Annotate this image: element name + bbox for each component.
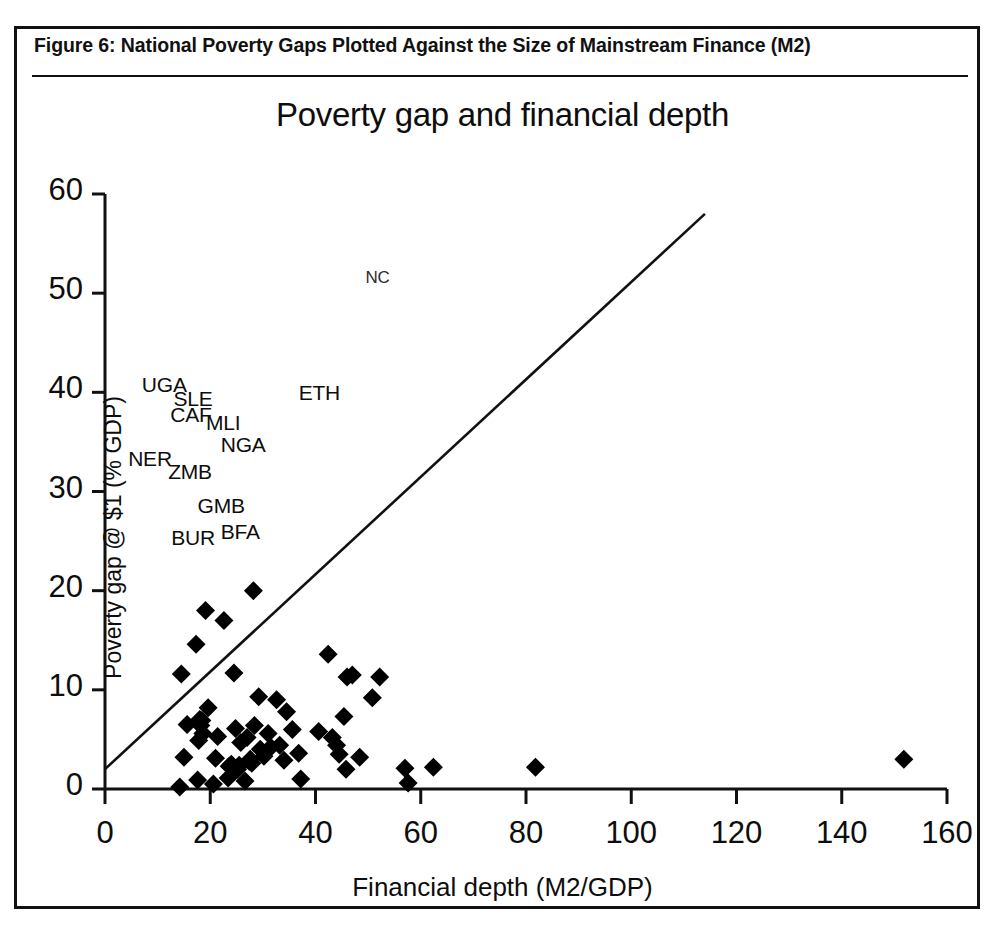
data-point xyxy=(244,581,263,600)
y-tick-label: 40 xyxy=(0,370,83,406)
y-tick-label: 0 xyxy=(0,767,83,803)
data-point xyxy=(370,667,389,686)
y-tick-label: 50 xyxy=(0,271,83,307)
data-point xyxy=(283,720,302,739)
plot-canvas xyxy=(105,194,947,789)
data-point xyxy=(894,750,913,769)
scatter-plot: 0102030405060 020406080100120140160 NCUG… xyxy=(105,194,947,789)
data-points xyxy=(170,581,913,796)
data-point xyxy=(424,758,443,777)
country-label: GMB xyxy=(198,494,245,518)
y-axis-title: Poverty gap @ $1 (% GDP) xyxy=(100,238,127,838)
country-label: NGA xyxy=(221,433,266,457)
y-tick-label: 20 xyxy=(0,569,83,605)
data-point xyxy=(334,707,353,726)
x-tick-label: 140 xyxy=(792,815,892,851)
data-point xyxy=(395,759,414,778)
country-label: ZMB xyxy=(168,460,212,484)
figure-caption: Figure 6: National Poverty Gaps Plotted … xyxy=(34,34,964,74)
data-point xyxy=(172,664,191,683)
data-point xyxy=(196,601,215,620)
chart-title: Poverty gap and financial depth xyxy=(0,96,1005,134)
country-label: NER xyxy=(128,447,172,471)
data-point xyxy=(188,771,207,790)
data-point xyxy=(208,727,227,746)
trend-line xyxy=(105,214,705,769)
x-tick-label: 20 xyxy=(160,815,260,851)
data-point xyxy=(249,687,268,706)
country-label: NC xyxy=(365,268,389,288)
country-label: BUR xyxy=(171,526,215,550)
x-axis-title: Financial depth (M2/GDP) xyxy=(0,872,1005,903)
data-point xyxy=(291,770,310,789)
caption-divider xyxy=(32,75,968,77)
data-point xyxy=(350,748,369,767)
x-tick-label: 40 xyxy=(266,815,366,851)
data-point xyxy=(319,645,338,664)
country-label: BFA xyxy=(221,520,260,544)
data-point xyxy=(363,688,382,707)
figure-page: Figure 6: National Poverty Gaps Plotted … xyxy=(0,0,1005,932)
data-point xyxy=(174,748,193,767)
x-tick-label: 120 xyxy=(687,815,787,851)
data-point xyxy=(187,635,206,654)
country-label: ETH xyxy=(299,381,340,405)
y-tick-label: 10 xyxy=(0,668,83,704)
data-point xyxy=(214,611,233,630)
y-tick-label: 60 xyxy=(0,172,83,208)
x-tick-label: 160 xyxy=(897,815,997,851)
data-point xyxy=(526,758,545,777)
country-label: MLI xyxy=(206,411,240,435)
y-tick-label: 30 xyxy=(0,470,83,506)
x-tick-label: 100 xyxy=(581,815,681,851)
x-tick-label: 60 xyxy=(371,815,471,851)
data-point xyxy=(224,663,243,682)
x-tick-label: 80 xyxy=(476,815,576,851)
